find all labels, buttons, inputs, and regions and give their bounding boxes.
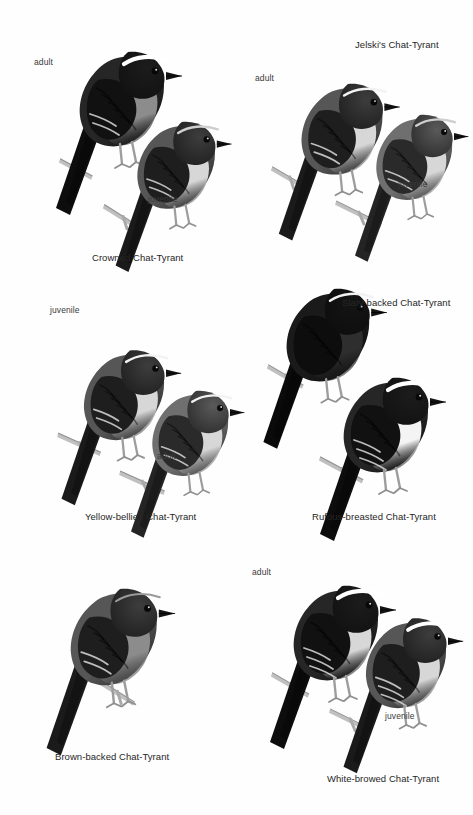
panel-white-browed: adultjuvenileWhite-browed Chat-Tyrant <box>0 0 473 815</box>
perch-branch <box>104 196 168 226</box>
age-label-jelskis-juvenile: juvenile <box>398 180 428 189</box>
perch-branch <box>120 462 188 492</box>
species-label-white-browed: White-browed Chat-Tyrant <box>327 774 439 784</box>
perch-branch <box>272 664 334 694</box>
perch-branch <box>272 158 332 188</box>
brown-backed-bird <box>26 558 179 762</box>
age-label-white-browed-adult: adult <box>252 568 271 577</box>
species-label-jelskis: Jelski's Chat-Tyrant <box>355 40 439 50</box>
age-label-jelskis-adult: adult <box>255 74 274 83</box>
perch-branch <box>268 356 328 386</box>
white-browed-adult <box>250 556 400 756</box>
species-label-slaty-backed: Slaty-backed Chat-Tyrant <box>342 298 450 308</box>
slaty-backed-bird <box>244 260 391 456</box>
panel-rufous-breasted: Rufous-breasted Chat-Tyrant <box>0 0 473 815</box>
crowned-juvenile <box>97 94 235 278</box>
jelskis-adult <box>260 55 404 247</box>
perch-branch <box>60 150 116 180</box>
panel-slaty-backed: Slaty-backed Chat-Tyrant <box>0 0 473 815</box>
species-label-yellow-bellied: Yellow-bellied Chat-Tyrant <box>85 512 196 522</box>
perch-branch <box>320 448 388 478</box>
species-label-brown-backed: Brown-backed Chat-Tyrant <box>55 752 169 762</box>
jelskis-juvenile <box>337 88 472 268</box>
perch-branch <box>100 672 160 702</box>
white-browed-juvenile <box>325 590 468 780</box>
species-label-rufous-breasted: Rufous-breasted Chat-Tyrant <box>312 512 436 522</box>
panel-brown-backed: Brown-backed Chat-Tyrant <box>0 0 473 815</box>
age-label-yellow-bellied-juvenile: juvenile <box>50 306 80 315</box>
age-label-crowned-adult: adult <box>34 58 53 67</box>
yellow-bellied-juvenile <box>43 322 186 512</box>
rufous-breasted-bird <box>300 348 450 548</box>
perch-branch <box>336 192 406 222</box>
crowned-adult <box>36 22 186 222</box>
illustration-plate: adultjuvenileCrowned Chat-Tyrantadultjuv… <box>0 0 473 815</box>
age-label-crowned-juvenile: juvenile <box>148 195 178 204</box>
age-label-white-browed-juvenile: juvenile <box>385 712 415 721</box>
yellow-bellied-adult <box>113 364 248 544</box>
species-label-crowned: Crowned Chat-Tyrant <box>92 253 183 263</box>
panel-crowned: adultjuvenileCrowned Chat-Tyrant <box>0 0 473 815</box>
panel-yellow-bellied: juvenileadultYellow-bellied Chat-Tyrant <box>0 0 473 815</box>
panel-jelskis: adultjuvenileJelski's Chat-Tyrant <box>0 0 473 815</box>
age-label-yellow-bellied-adult: adult <box>157 452 176 461</box>
perch-branch <box>58 424 124 454</box>
perch-branch <box>330 700 394 730</box>
